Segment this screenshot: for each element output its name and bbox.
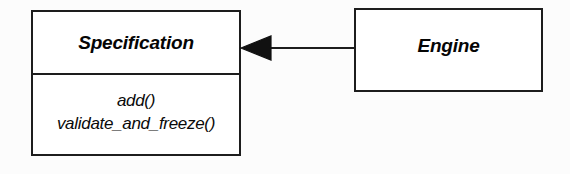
class-box-specification[interactable]: Specification add() validate_and_freeze(… xyxy=(31,10,241,156)
uml-class-diagram: Specification add() validate_and_freeze(… xyxy=(0,0,570,174)
class-name-compartment-engine: Engine xyxy=(356,10,541,90)
class-name-compartment-specification: Specification xyxy=(33,12,239,75)
class-member-add: add() xyxy=(117,90,155,112)
class-name-engine: Engine xyxy=(417,35,479,57)
class-box-engine[interactable]: Engine xyxy=(354,8,543,92)
generalization-arrow-engine-to-specification[interactable] xyxy=(238,30,358,66)
class-members-compartment-specification: add() validate_and_freeze() xyxy=(33,75,239,154)
class-member-validate-and-freeze: validate_and_freeze() xyxy=(57,113,215,135)
solid-triangle-arrowhead-icon xyxy=(241,36,271,60)
class-name-specification: Specification xyxy=(78,32,194,54)
